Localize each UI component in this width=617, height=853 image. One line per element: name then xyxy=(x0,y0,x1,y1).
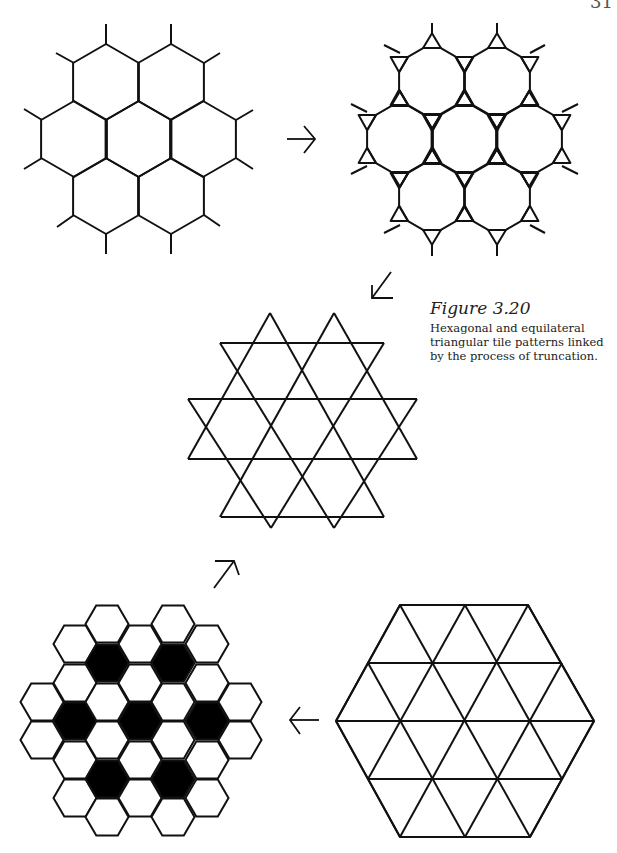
arrow-right-icon xyxy=(287,126,315,153)
arrow-up-right-icon xyxy=(214,561,239,588)
figure-diagram xyxy=(0,0,617,853)
truncated-hexagonal-tiling xyxy=(351,23,578,256)
trihexagonal-star-pattern xyxy=(188,313,417,528)
hexagonal-tiling-shaded xyxy=(21,605,262,835)
triangular-tiling xyxy=(336,605,594,837)
arrow-down-left-icon xyxy=(372,272,393,298)
hexagonal-tiling xyxy=(24,24,253,254)
arrow-left-icon xyxy=(290,707,319,734)
